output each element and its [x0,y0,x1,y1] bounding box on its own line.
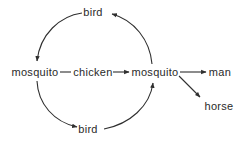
node-mosquito-right: mosquito [131,66,178,78]
arrow-bird-bottom-to-mosquito-right [104,83,153,129]
node-bird-bottom: bird [78,123,98,135]
node-chicken: chicken [73,66,112,78]
arrow-bird-top-to-mosquito-left [37,13,82,61]
node-bird-top: bird [83,6,103,18]
node-man: man [209,66,231,78]
node-mosquito-left: mosquito [11,66,58,78]
arrow-mosquito-right-to-horse [179,76,200,97]
arrow-mosquito-right-to-bird-top [112,14,152,64]
node-horse: horse [204,100,233,112]
transmission-cycle-diagram: bird mosquito chicken mosquito bird man … [0,0,243,142]
arrow-mosquito-left-to-bird-bottom [37,81,77,127]
